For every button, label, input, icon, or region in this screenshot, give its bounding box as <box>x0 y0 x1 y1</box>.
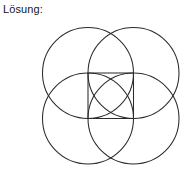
page-root: Lösung: <box>0 0 194 188</box>
circles-group <box>43 28 180 165</box>
central-square <box>88 73 134 119</box>
square-group <box>88 73 134 119</box>
geometry-figure <box>0 0 194 188</box>
